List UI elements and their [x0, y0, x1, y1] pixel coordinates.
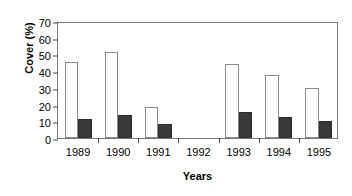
y-axis-title: Cover (%): [23, 0, 35, 103]
y-tick-mark: [53, 73, 58, 74]
x-tick-mark: [299, 138, 300, 143]
y-tick-label: 20: [39, 101, 51, 112]
x-tick-label-1990: 1990: [98, 147, 138, 158]
bar-filled-bars-1991: [158, 124, 172, 138]
bar-filled-bars-1994: [279, 117, 293, 138]
y-tick-label: 30: [39, 84, 51, 95]
plot-area: 010203040506070 198919901991199219931994…: [57, 22, 338, 139]
x-tick-label-1989: 1989: [58, 147, 98, 158]
bar-open-bars-1991: [145, 107, 159, 138]
y-tick-mark: [53, 123, 58, 124]
bar-filled-bars-1990: [118, 115, 132, 138]
x-tick-label-1993: 1993: [219, 147, 259, 158]
x-tick-mark: [138, 138, 139, 143]
x-tick-mark: [178, 138, 179, 143]
x-tick-label-1992: 1992: [178, 147, 218, 158]
x-tick-label-1994: 1994: [259, 147, 299, 158]
y-tick-label: 40: [39, 68, 51, 79]
y-tick-label: 60: [39, 34, 51, 45]
x-axis-title: Years: [57, 170, 338, 182]
x-tick-mark: [219, 138, 220, 143]
bar-chart: Cover (%) Years 010203040506070 19891990…: [0, 0, 352, 196]
y-tick-mark: [53, 39, 58, 40]
y-tick-mark: [53, 89, 58, 90]
bar-filled-bars-1995: [319, 121, 333, 138]
y-tick-mark: [53, 106, 58, 107]
y-tick-label: 50: [39, 51, 51, 62]
bar-filled-bars-1989: [78, 119, 92, 138]
x-tick-label-1995: 1995: [299, 147, 339, 158]
bar-filled-bars-1993: [239, 112, 253, 138]
y-tick-label: 0: [45, 135, 51, 146]
x-tick-label-1991: 1991: [138, 147, 178, 158]
y-tick-mark: [53, 23, 58, 24]
y-tick-mark: [53, 140, 58, 141]
bar-open-bars-1995: [305, 88, 319, 138]
y-tick-label: 10: [39, 118, 51, 129]
bar-open-bars-1989: [65, 62, 79, 138]
bar-open-bars-1993: [225, 64, 239, 138]
x-tick-mark: [98, 138, 99, 143]
bar-open-bars-1994: [265, 75, 279, 138]
y-tick-label: 70: [39, 18, 51, 29]
bar-open-bars-1990: [105, 52, 119, 138]
x-tick-mark: [259, 138, 260, 143]
y-tick-mark: [53, 56, 58, 57]
